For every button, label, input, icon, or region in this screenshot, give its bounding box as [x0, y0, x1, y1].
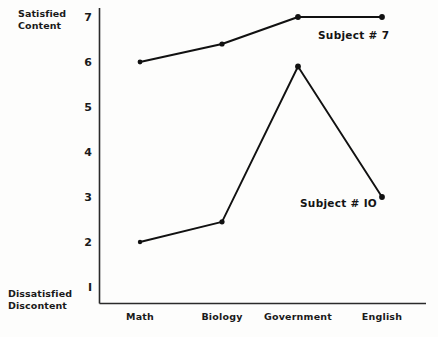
series-label-subject-10: Subject # IO — [300, 197, 377, 209]
plot-canvas — [0, 0, 438, 337]
data-point-s7-english — [379, 14, 385, 20]
data-point-s7-biology — [219, 41, 224, 46]
data-point-s10-government — [295, 64, 301, 70]
data-point-s10-math — [138, 240, 142, 244]
chart-figure: Satisfied Content Dissatisfied Disconten… — [0, 0, 438, 337]
data-point-s7-math — [138, 60, 143, 65]
x-tick-government: Government — [264, 311, 332, 322]
x-tick-biology: Biology — [201, 311, 242, 322]
data-point-s10-english — [379, 194, 385, 200]
x-tick-english: English — [362, 311, 402, 322]
data-point-s10-biology — [219, 219, 224, 224]
series-label-subject-7: Subject # 7 — [318, 29, 389, 41]
x-tick-math: Math — [126, 311, 154, 322]
series-line-subject-10 — [140, 67, 382, 243]
data-point-s7-government — [295, 14, 301, 20]
